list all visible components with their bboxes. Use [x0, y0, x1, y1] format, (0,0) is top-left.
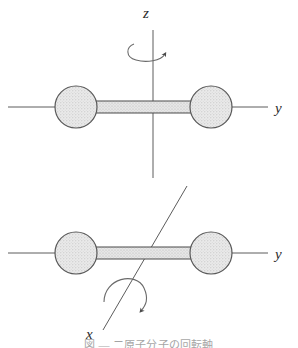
- figure-root: z y x y 図 —: [0, 0, 298, 348]
- panel-rotation-about-z: z y: [8, 5, 282, 178]
- y-axis-label-bottom: y: [273, 246, 282, 262]
- z-axis-label: z: [142, 5, 149, 21]
- figure-caption: 図 — 二原子分子の回転軸: [0, 338, 298, 348]
- bond-top: [92, 101, 196, 113]
- left-atom-bottom: [55, 232, 97, 274]
- rotation-arrow-x-icon: [104, 279, 147, 311]
- right-atom-bottom: [190, 232, 232, 274]
- y-axis-label-top: y: [273, 100, 282, 116]
- panel-rotation-about-x: x y: [8, 186, 282, 342]
- diagram-canvas: z y x y: [0, 0, 298, 348]
- bond-bottom: [92, 247, 196, 259]
- right-atom-top: [190, 86, 232, 128]
- left-atom-top: [55, 86, 97, 128]
- rotation-arrow-z-icon: [128, 44, 165, 61]
